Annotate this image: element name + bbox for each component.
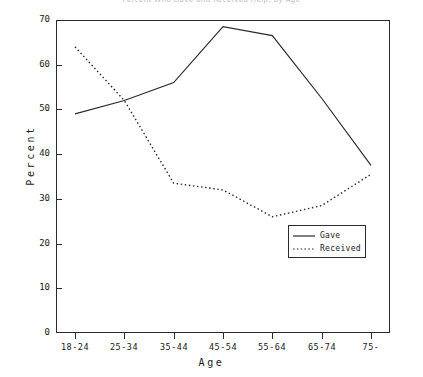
x-axis-tick [124,333,125,339]
legend-item-gave: Gave [293,229,365,242]
x-axis-tick [371,333,372,339]
x-axis-tick [322,333,323,339]
legend-label-gave: Gave [320,231,340,240]
y-axis-tick-label: 10 [4,283,50,292]
y-axis-title: Percent [25,116,36,196]
legend-label-received: Received [320,244,361,253]
series-line-received [75,47,371,217]
plot-area [56,20,390,333]
chart-title: Percent Who Gave and Received Help, by A… [0,0,423,4]
y-axis-tick-label: 50 [4,104,50,113]
chart-container: Percent Who Gave and Received Help, by A… [0,0,423,377]
legend-solid-line-icon [293,232,315,240]
y-axis-tick-label: 20 [4,239,50,248]
x-axis-tick-label: 75- [341,343,401,352]
y-axis-tick-label: 0 [4,328,50,337]
x-axis-tick [223,333,224,339]
x-axis-title: Age [0,357,423,368]
x-axis-tick [272,333,273,339]
x-axis-tick [174,333,175,339]
y-axis-tick-label: 60 [4,60,50,69]
legend-dotted-line-icon [293,245,315,253]
x-axis-tick [75,333,76,339]
y-axis-tick-label: 70 [4,15,50,24]
legend-item-received: Received [293,242,365,255]
series-lines [56,20,390,333]
chart-legend: Gave Received [288,225,366,258]
